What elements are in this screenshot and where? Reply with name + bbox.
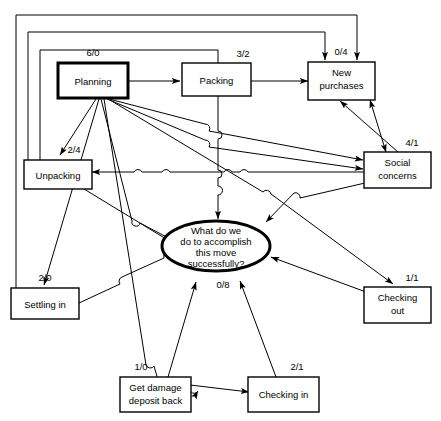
node-social-concerns[interactable]: Social concerns bbox=[364, 152, 431, 188]
ratio-get-damage-deposit-back: 1/0 bbox=[134, 361, 147, 372]
node-get-damage-deposit-back[interactable]: Get damage deposit back bbox=[120, 377, 191, 412]
ratio-checking-out: 1/1 bbox=[405, 272, 418, 283]
ratio-settling-in: 2/0 bbox=[38, 272, 51, 283]
node-checking-out[interactable]: Checking out bbox=[364, 287, 431, 323]
edge-unpacking-goal bbox=[84, 189, 176, 245]
node-planning[interactable]: Planning bbox=[58, 63, 128, 98]
node-social-concerns-label-2: concerns bbox=[378, 170, 417, 181]
edge-checking-out-goal bbox=[271, 257, 366, 292]
edge-get-damage-deposit-back-goal bbox=[168, 282, 196, 377]
node-planning-label: Planning bbox=[75, 76, 112, 87]
edge-settling-in-goal bbox=[79, 249, 180, 303]
node-checking-in-label: Checking in bbox=[259, 389, 309, 400]
node-goal[interactable]: What do we do to accomplish this move su… bbox=[162, 221, 270, 271]
edge-social-concerns-new-purchases-curve bbox=[340, 101, 398, 152]
node-packing[interactable]: Packing bbox=[182, 63, 251, 96]
node-new-purchases[interactable]: New purchases bbox=[308, 62, 375, 100]
node-checking-in[interactable]: Checking in bbox=[248, 377, 319, 412]
edge-social-concerns-goal bbox=[266, 183, 365, 222]
ratio-social-concerns: 4/1 bbox=[405, 137, 418, 148]
edge-planning-settling-in bbox=[44, 99, 99, 285]
edge-planning-goal-left bbox=[101, 99, 178, 243]
ratio-checking-in: 2/1 bbox=[290, 361, 303, 372]
edge-checking-in-goal bbox=[240, 281, 276, 377]
node-unpacking-label: Unpacking bbox=[36, 170, 81, 181]
edge-social-concerns-new-purchases bbox=[370, 100, 386, 152]
goal-label-3: this move bbox=[196, 247, 237, 258]
node-new-purchases-label-2: purchases bbox=[320, 80, 364, 91]
node-settling-in-label: Settling in bbox=[24, 299, 66, 310]
node-settling-in[interactable]: Settling in bbox=[11, 288, 79, 319]
node-new-purchases-label-1: New bbox=[332, 67, 351, 78]
cognitive-map-svg: Planning 6/0 Packing 3/2 New purchases 0… bbox=[0, 0, 441, 421]
ratio-new-purchases: 0/4 bbox=[334, 46, 347, 57]
ratio-planning: 6/0 bbox=[86, 47, 99, 58]
edge-planning-social-concerns bbox=[107, 99, 363, 169]
ratio-goal: 0/8 bbox=[216, 279, 229, 290]
ratio-packing: 3/2 bbox=[236, 48, 249, 59]
ratio-unpacking: 2/4 bbox=[67, 144, 80, 155]
goal-label-2: do to accomplish bbox=[180, 236, 251, 247]
node-get-damage-deposit-back-label-2: deposit back bbox=[129, 395, 183, 406]
goal-label-4: successfully? bbox=[188, 258, 245, 269]
node-checking-out-label-2: out bbox=[391, 305, 405, 316]
node-packing-label: Packing bbox=[200, 75, 234, 86]
edge-packing-goal bbox=[218, 96, 223, 219]
node-unpacking[interactable]: Unpacking bbox=[24, 160, 92, 189]
node-social-concerns-label-1: Social bbox=[385, 157, 411, 168]
node-get-damage-deposit-back-label-1: Get damage bbox=[129, 382, 181, 393]
diagram-canvas: Planning 6/0 Packing 3/2 New purchases 0… bbox=[0, 0, 441, 421]
node-checking-out-label-1: Checking bbox=[378, 292, 418, 303]
goal-label-1: What do we bbox=[191, 225, 241, 236]
